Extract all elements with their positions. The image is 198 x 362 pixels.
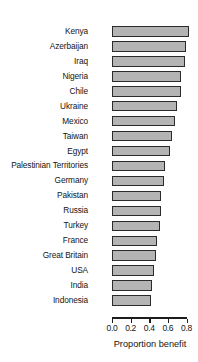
bar-row: Pakistan [0,188,198,203]
bar [112,86,181,96]
bar [112,56,185,66]
bar-row: Ukraine [0,99,198,114]
bar [112,265,154,275]
bar-row: Turkey [0,218,198,233]
category-label: Kenya [65,24,88,39]
x-axis-tick-labels: 0.00.20.40.60.8 [0,323,198,335]
category-label: Egypt [67,144,88,159]
bar [112,116,175,126]
category-label: India [71,278,89,293]
bar [112,26,189,36]
bar [112,295,151,305]
category-label: Indonesia [53,293,88,308]
category-label: Ukraine [60,99,88,114]
bar-row: Palestinian Territories [0,158,198,173]
bar [112,41,186,51]
category-label: Great Britain [43,248,88,263]
chart-plot-area: KenyaAzerbaijanIraqNigeriaChileUkraineMe… [0,24,198,308]
x-axis-tick-label: 0.2 [125,323,136,334]
bar [112,131,172,141]
category-label: Mexico [62,114,88,129]
x-axis-tick-label: 0.6 [162,323,173,334]
bar-row: Mexico [0,114,198,129]
category-label: Taiwan [63,129,88,144]
bar-chart: KenyaAzerbaijanIraqNigeriaChileUkraineMe… [0,0,198,362]
bar [112,206,161,216]
bar-row: Kenya [0,24,198,39]
bar [112,280,152,290]
category-label: Azerbaijan [50,39,88,54]
bar-row: Egypt [0,144,198,159]
bar [112,236,157,246]
category-label: Russia [63,203,88,218]
x-axis-title: Proportion benefit [112,338,187,350]
bar-row: Nigeria [0,69,198,84]
bar [112,221,160,231]
bar [112,250,156,260]
bar [112,101,177,111]
category-label: Nigeria [62,69,88,84]
category-label: USA [71,263,88,278]
bar [112,161,165,171]
category-label: Turkey [64,218,88,233]
bar-row: Great Britain [0,248,198,263]
bar-row: India [0,278,198,293]
bar-row: France [0,233,198,248]
bar-row: Russia [0,203,198,218]
bar [112,146,170,156]
category-label: Iraq [74,54,88,69]
bar-row: Germany [0,173,198,188]
x-axis-tick-label: 0.0 [107,323,118,334]
x-axis-tick-label: 0.4 [144,323,155,334]
category-label: France [63,233,88,248]
category-label: Pakistan [57,188,88,203]
category-label: Germany [55,173,88,188]
bar-row: USA [0,263,198,278]
bar [112,176,164,186]
bar-row: Taiwan [0,129,198,144]
bar-row: Azerbaijan [0,39,198,54]
x-axis-tick-label: 0.8 [181,323,192,334]
bar [112,191,161,201]
x-axis-title-text: Proportion benefit [114,338,187,350]
category-label: Chile [70,84,88,99]
bar-row: Iraq [0,54,198,69]
bar [112,71,181,81]
bar-row: Indonesia [0,293,198,308]
bar-row: Chile [0,84,198,99]
category-label: Palestinian Territories [11,158,88,173]
